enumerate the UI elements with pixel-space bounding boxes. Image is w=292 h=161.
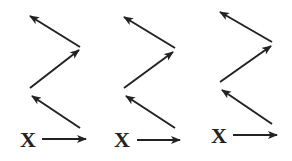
arrow-icon: [126, 96, 175, 128]
panel-3: X: [211, 12, 277, 148]
panel-2: X: [114, 17, 180, 152]
arrow-icon: [124, 17, 175, 48]
arrow-icon: [124, 52, 173, 88]
arrow-icon: [220, 46, 271, 82]
arrow-icon: [32, 96, 80, 128]
x-label: X: [114, 127, 130, 152]
arrow-icon: [30, 16, 80, 47]
x-label: X: [211, 123, 227, 148]
diagram-canvas: XXX: [0, 0, 292, 161]
arrow-icon: [220, 12, 272, 42]
panel-1: X: [20, 16, 86, 152]
arrow-icon: [222, 90, 272, 124]
arrow-icon: [30, 50, 79, 88]
x-label: X: [20, 127, 36, 152]
